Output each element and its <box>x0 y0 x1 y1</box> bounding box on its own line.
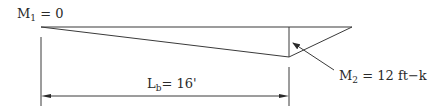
dimension-arrow-left <box>41 94 51 98</box>
moment-diagram: M1 = 0 Lb= 16' M2 = 12 ft−k <box>0 0 438 112</box>
moment-line-segment-2 <box>289 27 352 57</box>
m2-label-rest: = 12 ft−k <box>358 68 427 83</box>
m1-label: M1 = 0 <box>17 6 63 23</box>
lb-label-rest: = 16' <box>161 76 196 91</box>
m2-label: M2 = 12 ft−k <box>339 68 427 85</box>
lb-label: Lb= 16' <box>147 76 197 93</box>
m2-label-main: M <box>339 68 352 83</box>
moment-line-segment-1 <box>41 27 289 57</box>
m2-leader-arrow <box>293 43 334 70</box>
m1-label-main: M <box>17 6 30 21</box>
lb-label-main: L <box>147 76 156 91</box>
dimension-arrow-right <box>279 94 289 98</box>
m1-label-rest: = 0 <box>36 6 63 21</box>
